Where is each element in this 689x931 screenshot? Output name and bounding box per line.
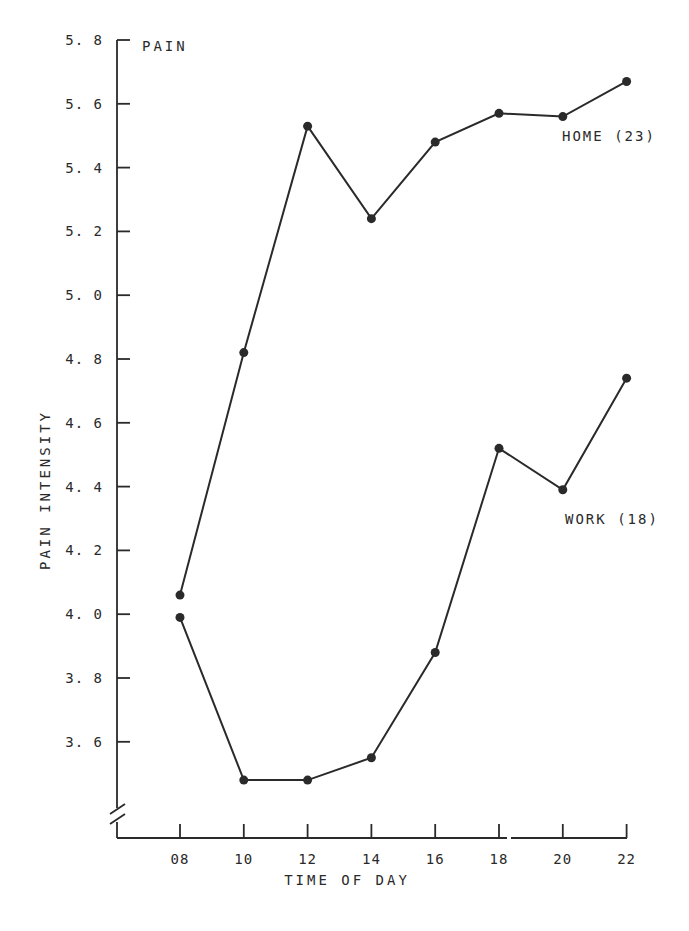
data-point-marker-icon — [431, 648, 440, 657]
data-point-marker-icon — [622, 77, 631, 86]
series-layer — [176, 77, 632, 785]
x-tick-label: 14 — [362, 851, 381, 867]
y-tick-label: 4. 8 — [65, 351, 103, 367]
x-tick-label: 16 — [426, 851, 445, 867]
data-point-marker-icon — [495, 444, 504, 453]
x-axis: 0810121416182022 — [117, 824, 636, 867]
home-series-label: HOME (23) — [562, 128, 656, 144]
x-tick-label: 18 — [490, 851, 509, 867]
home-series — [176, 77, 632, 600]
work-series — [176, 374, 632, 785]
y-tick-label: 5. 0 — [65, 287, 103, 303]
home-line — [180, 81, 627, 595]
y-tick-label: 4. 2 — [65, 542, 103, 558]
y-axis-top-label: PAIN — [142, 38, 188, 54]
y-tick-label: 3. 6 — [65, 734, 103, 750]
y-tick-label: 4. 4 — [65, 479, 103, 495]
data-point-marker-icon — [303, 122, 312, 131]
data-point-marker-icon — [558, 485, 567, 494]
data-point-marker-icon — [239, 776, 248, 785]
x-tick-label: 20 — [553, 851, 572, 867]
line-chart: 5. 85. 65. 45. 25. 04. 84. 64. 44. 24. 0… — [0, 0, 689, 931]
work-series-label: WORK (18) — [565, 511, 659, 527]
y-tick-label: 4. 0 — [65, 606, 103, 622]
data-point-marker-icon — [303, 776, 312, 785]
data-point-marker-icon — [239, 348, 248, 357]
x-tick-label: 10 — [234, 851, 253, 867]
y-tick-label: 4. 6 — [65, 415, 103, 431]
y-axis: 5. 85. 65. 45. 25. 04. 84. 64. 44. 24. 0… — [65, 32, 130, 838]
y-ticks: 5. 85. 65. 45. 25. 04. 84. 64. 44. 24. 0… — [65, 32, 130, 750]
data-point-marker-icon — [367, 214, 376, 223]
y-tick-label: 5. 8 — [65, 32, 103, 48]
y-tick-label: 3. 8 — [65, 670, 103, 686]
data-point-marker-icon — [176, 613, 185, 622]
data-point-marker-icon — [495, 109, 504, 118]
work-line — [180, 378, 627, 780]
data-point-marker-icon — [558, 112, 567, 121]
y-tick-label: 5. 6 — [65, 96, 103, 112]
data-point-marker-icon — [622, 374, 631, 383]
data-point-marker-icon — [367, 753, 376, 762]
x-tick-label: 22 — [617, 851, 636, 867]
x-tick-label: 08 — [171, 851, 190, 867]
data-point-marker-icon — [431, 138, 440, 147]
y-tick-label: 5. 2 — [65, 223, 103, 239]
x-axis-title: TIME OF DAY — [284, 872, 410, 888]
x-ticks: 0810121416182022 — [171, 824, 636, 867]
y-axis-title: PAIN INTENSITY — [37, 410, 53, 570]
x-tick-label: 12 — [298, 851, 317, 867]
data-point-marker-icon — [176, 591, 185, 600]
y-tick-label: 5. 4 — [65, 160, 103, 176]
